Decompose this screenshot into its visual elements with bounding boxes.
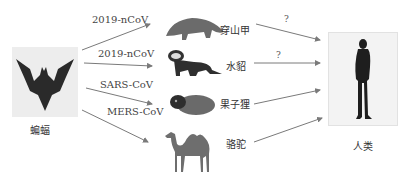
virus-label-pangolin: 2019-nCoV [92, 14, 148, 25]
camel-icon [163, 128, 215, 176]
host-label-camel: 骆驼 [226, 136, 246, 151]
host-label-mink: 水貂 [226, 58, 246, 73]
uncertain-mark-mink: ? [276, 50, 281, 60]
host-label-pangolin: 穿山甲 [220, 22, 250, 37]
virus-label-mink: 2019-nCoV [98, 48, 154, 59]
arrow-pangolin-human [256, 24, 320, 40]
uncertain-mark-pangolin: ? [284, 14, 289, 24]
host-label-civet: 果子狸 [220, 96, 250, 111]
arrow-bat-pangolin [82, 24, 150, 50]
virus-label-camel: MERS-CoV [107, 106, 164, 117]
civet-icon [168, 92, 216, 116]
arrow-bat-civet [86, 88, 152, 104]
arrow-bat-mink [84, 63, 152, 66]
mink-icon [166, 48, 226, 78]
human-silhouette-icon [329, 33, 397, 125]
arrow-civet-human [254, 90, 320, 104]
human-label: 人类 [353, 138, 373, 153]
virus-label-civet: SARS-CoV [100, 79, 153, 90]
human-image-box [328, 32, 398, 126]
arrow-camel-human [254, 118, 322, 142]
